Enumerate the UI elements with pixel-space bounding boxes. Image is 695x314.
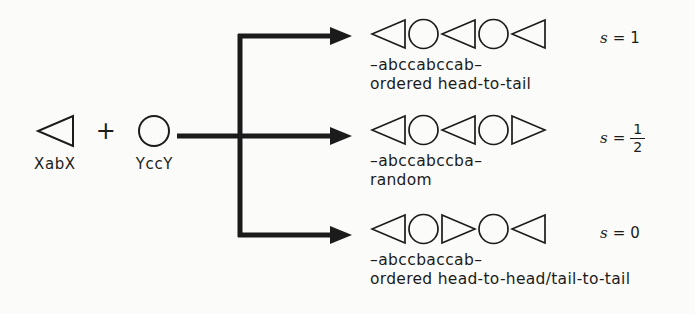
triangle-left-icon: [510, 17, 547, 55]
triangle-left-icon: [370, 17, 407, 55]
s-symbol: s: [600, 224, 608, 242]
triangle-left-icon: [370, 113, 407, 151]
polymer-sequence-diagram: XabX + YccY: [0, 0, 695, 314]
product-sequence-text: –abccabccba–: [370, 152, 547, 170]
product-chain-shapes: [370, 114, 547, 150]
s-value-fraction: 1 2: [630, 122, 645, 154]
product-description-text: ordered head-to-head/tail-to-tail: [370, 270, 630, 288]
product-description-text: random: [370, 171, 547, 189]
circle-icon: [477, 212, 510, 250]
triangle-right-icon: [440, 212, 477, 250]
product-chain-shapes: [370, 18, 547, 54]
triangle-left-icon: [440, 17, 477, 55]
triangle-left-icon: [370, 212, 407, 250]
fraction-numerator: 1: [630, 122, 645, 139]
circle-icon: [477, 113, 510, 151]
circle-icon: [477, 17, 510, 55]
s-value: 0: [630, 224, 640, 242]
s-value-row-3: s = 0: [600, 224, 640, 242]
triangle-left-icon: [440, 113, 477, 151]
triangle-right-icon: [510, 113, 547, 151]
triangle-left-icon: [510, 212, 547, 250]
circle-icon: [407, 17, 440, 55]
product-row-head-to-head-tail-to-tail: –abccbaccab– ordered head-to-head/tail-t…: [370, 213, 630, 288]
product-row-random: –abccabccba– random: [370, 114, 547, 189]
product-sequence-text: –abccbaccab–: [370, 251, 630, 269]
s-value-row-1: s = 1: [600, 29, 640, 47]
s-value: 1: [630, 29, 640, 47]
s-symbol: s: [600, 29, 608, 47]
product-row-ordered-head-to-tail: –abccabccab– ordered head-to-tail: [370, 18, 547, 93]
fraction-denominator: 2: [630, 139, 645, 155]
product-chain-shapes: [370, 213, 630, 249]
equals-sign: =: [613, 224, 626, 242]
equals-sign: =: [613, 129, 626, 147]
s-value-row-2: s = 1 2: [600, 122, 645, 154]
product-sequence-text: –abccabccab–: [370, 56, 547, 74]
product-description-text: ordered head-to-tail: [370, 75, 547, 93]
circle-icon: [407, 212, 440, 250]
equals-sign: =: [613, 29, 626, 47]
s-symbol: s: [600, 129, 608, 147]
circle-icon: [407, 113, 440, 151]
